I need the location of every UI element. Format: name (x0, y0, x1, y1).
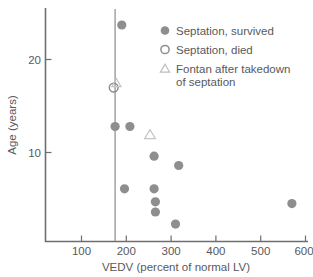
x-tick-labels: 100 200 300 400 500 600 (72, 245, 313, 257)
data-point (287, 199, 296, 208)
data-point (150, 184, 159, 193)
legend-entry-fontan-takedown: Fontan after takedown of septation (160, 63, 290, 88)
x-tick-label-500: 500 (251, 245, 270, 257)
chart-legend: Septation, survived Septation, died Font… (160, 25, 290, 88)
x-tick-label-200: 200 (117, 245, 136, 257)
data-point (125, 122, 134, 131)
legend-label-septation-survived: Septation, survived (176, 25, 274, 37)
data-point (151, 207, 160, 216)
legend-label-fontan-takedown-line1: Fontan after takedown (176, 63, 290, 75)
data-point (171, 220, 180, 229)
data-point-open (109, 83, 118, 92)
legend-marker-filled-circle-icon (161, 26, 170, 35)
legend-label-septation-died: Septation, died (176, 44, 253, 56)
legend-marker-open-circle-icon (161, 45, 169, 53)
legend-entry-septation-died: Septation, died (161, 44, 253, 56)
y-tick-labels: 20 10 (28, 54, 41, 159)
x-tick-label-300: 300 (162, 245, 181, 257)
data-point (117, 20, 126, 29)
data-point (111, 122, 120, 131)
data-point (120, 184, 129, 193)
x-tick-label-400: 400 (206, 245, 225, 257)
scatter-plot-figure: 20 10 100 200 300 400 500 600 VEDV (perc… (0, 0, 313, 277)
series-septation-died (109, 83, 118, 92)
legend-label-fontan-takedown-line2: of septation (176, 76, 235, 88)
y-tick-label-20: 20 (28, 54, 41, 66)
data-point (150, 152, 159, 161)
x-tick-label-600: 600 (294, 245, 313, 257)
legend-entry-septation-survived: Septation, survived (161, 25, 274, 37)
data-point (151, 197, 160, 206)
x-axis-title: VEDV (percent of normal LV) (102, 261, 250, 273)
data-point (174, 161, 183, 170)
y-tick-label-10: 10 (28, 147, 41, 159)
legend-marker-open-triangle-icon (160, 64, 169, 72)
x-tick-label-100: 100 (72, 245, 91, 257)
chart-canvas: 20 10 100 200 300 400 500 600 VEDV (perc… (0, 0, 313, 277)
y-axis-title: Age (years) (6, 95, 18, 155)
data-point-triangle (145, 130, 156, 139)
